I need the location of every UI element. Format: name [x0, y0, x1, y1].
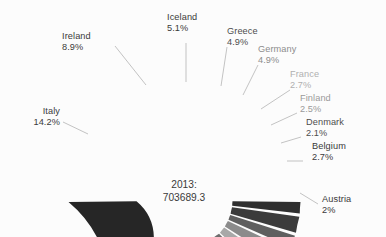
slice-label-italy-name: Italy	[2, 106, 60, 117]
slice-label-ireland-name: Ireland	[62, 31, 91, 42]
slice-label-greece: Greece 4.9%	[227, 26, 258, 49]
slice-label-germany: Germany 4.9%	[258, 44, 296, 67]
center-label-value: 703689.3	[124, 191, 244, 204]
slice-label-belgium-value: 2.7%	[312, 152, 346, 163]
leader-line-france	[261, 90, 290, 109]
slice-label-france-name: France	[290, 69, 319, 80]
chart-canvas: Italy 14.2% Ireland 8.9% Iceland 5.1% Gr…	[0, 0, 386, 237]
slice-label-greece-value: 4.9%	[227, 37, 258, 48]
slice-label-austria-value: 2%	[322, 205, 351, 216]
slice-label-denmark-value: 2.1%	[306, 128, 344, 139]
slice-label-germany-value: 4.9%	[258, 55, 296, 66]
slice-group	[69, 201, 301, 237]
slice-label-finland-value: 2.5%	[300, 104, 331, 115]
slice-label-italy: Italy 14.2%	[2, 106, 60, 129]
slice-label-iceland-value: 5.1%	[167, 23, 197, 34]
slice-label-belgium: Belgium 2.7%	[312, 141, 346, 164]
slice-label-ireland-value: 8.9%	[62, 42, 91, 53]
slice-label-finland-name: Finland	[300, 93, 331, 104]
slice-label-denmark-name: Denmark	[306, 117, 344, 128]
pie-slice-italy[interactable]	[69, 201, 154, 237]
leader-line-finland	[271, 113, 297, 125]
leader-line-ireland	[115, 46, 146, 85]
leader-line-denmark	[281, 137, 301, 143]
slice-label-germany-name: Germany	[258, 44, 296, 55]
center-label-year: 2013:	[124, 178, 244, 191]
slice-label-greece-name: Greece	[227, 26, 258, 37]
slice-label-austria-name: Austria	[322, 194, 351, 205]
slice-label-denmark: Denmark 2.1%	[306, 117, 344, 140]
leader-line-italy	[63, 122, 88, 134]
slice-label-ireland: Ireland 8.9%	[62, 31, 91, 54]
center-total-label: 2013: 703689.3	[124, 178, 244, 204]
slice-label-belgium-name: Belgium	[312, 141, 346, 152]
slice-label-france-value: 2.7%	[290, 80, 319, 91]
slice-label-italy-value: 14.2%	[2, 117, 60, 128]
leader-line-greece	[221, 47, 227, 86]
slice-label-austria: Austria 2%	[322, 194, 351, 217]
leader-line-austria	[300, 193, 318, 204]
slice-label-iceland: Iceland 5.1%	[167, 12, 197, 35]
slice-label-finland: Finland 2.5%	[300, 93, 331, 116]
slice-label-france: France 2.7%	[290, 69, 319, 92]
leader-line-germany	[243, 65, 258, 95]
slice-label-iceland-name: Iceland	[167, 12, 197, 23]
